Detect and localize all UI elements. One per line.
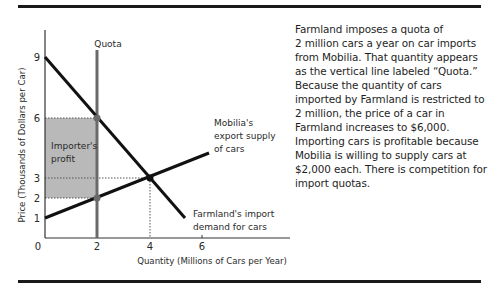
caption-line: Farmland increases to $6,000. <box>295 120 490 134</box>
supply-label-line3: of cars <box>214 144 245 154</box>
chart-caption: Farmland imposes a quota of 2 million ca… <box>295 22 490 190</box>
demand-label-line2: demand for cars <box>193 222 267 232</box>
x-tick-label-2: 2 <box>94 241 100 252</box>
y-tick-6: 6 <box>34 113 40 124</box>
x-tick-label-6: 6 <box>199 241 205 252</box>
caption-line: Farmland imposes a quota of <box>295 22 490 36</box>
caption-line: imported by Farmland is restricted to <box>295 92 490 106</box>
caption-line: Importing cars is profitable because <box>295 134 490 148</box>
y-tick-3: 3 <box>34 173 40 184</box>
y-axis-title: Price (Thousands of Dollars per Car) <box>17 67 27 222</box>
y-tick-1: 1 <box>34 213 40 224</box>
caption-line: 2 million cars a year on car imports <box>295 36 490 50</box>
importer-profit-label-line2: profit <box>51 154 75 164</box>
importer-profit-label-line1: Importer's <box>51 141 98 151</box>
equilibrium-point <box>147 175 154 182</box>
quota-supply-point <box>94 195 101 202</box>
caption-line: Because the quantity of cars <box>295 78 490 92</box>
caption-line: Mobilia is willing to supply cars at <box>295 148 490 162</box>
caption-line: 2 million, the price of a car in <box>295 106 490 120</box>
caption-line: as the vertical line labeled “Quota.” <box>295 64 490 78</box>
supply-label-line2: export supply <box>214 131 276 141</box>
quota-demand-point <box>94 115 101 122</box>
caption-line: import quotas. <box>295 176 490 190</box>
x-axis-title: Quantity (Millions of Cars per Year) <box>137 256 287 266</box>
supply-label-line1: Mobilia's <box>214 118 253 128</box>
x-tick-label-4: 4 <box>147 241 153 252</box>
y-tick-9: 9 <box>34 52 40 63</box>
caption-line: from Mobilia. That quantity appears <box>295 50 490 64</box>
caption-line: $2,000 each. There is competition for <box>295 162 490 176</box>
quota-chart: 9 6 3 2 1 0 2 4 6 Quantity (Millions of … <box>0 0 300 286</box>
quota-label: Quota <box>94 39 121 49</box>
x-tick-label-0: 0 <box>35 241 41 252</box>
y-tick-2: 2 <box>34 193 40 204</box>
demand-label-line1: Farmland's import <box>193 209 275 219</box>
